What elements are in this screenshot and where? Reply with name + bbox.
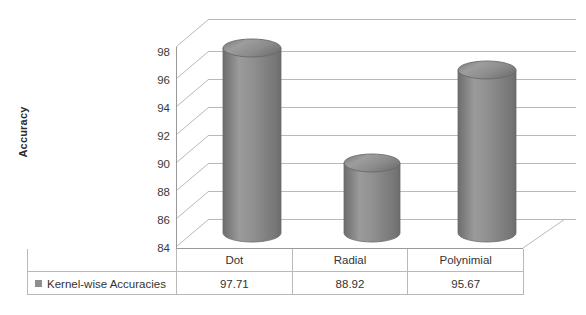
legend-label: Kernel-wise Accuracies: [47, 278, 166, 290]
bar-polynimial[interactable]: [458, 61, 516, 242]
depth-line-86: [176, 219, 209, 247]
depth-line-98: [176, 51, 209, 79]
depth-line-top: [176, 19, 209, 47]
floor-right-edge: [523, 219, 565, 248]
table-header-dot: Dot: [177, 249, 293, 271]
table-row-values: Kernel-wise Accuracies 97.71 88.92 95.67: [28, 272, 523, 295]
bar-radial-cap: [344, 154, 400, 172]
depth-line-94: [176, 107, 209, 135]
bar-dot-body: [223, 48, 281, 242]
depth-line-88: [176, 191, 209, 219]
depth-line-96: [176, 79, 209, 107]
bar-radial[interactable]: [344, 154, 400, 242]
table-value-polynimial: 95.67: [408, 272, 523, 295]
bar-radial-body: [344, 163, 400, 242]
table-row-categories: Dot Radial Polynimial: [28, 249, 523, 272]
bar-dot-cap: [223, 39, 281, 57]
legend-entry[interactable]: Kernel-wise Accuracies: [28, 272, 177, 295]
bar-polynimial-body: [458, 70, 516, 242]
depth-line-90: [176, 163, 209, 191]
bar-polynimial-cap: [458, 61, 516, 79]
chart-container: Accuracy 98 96 94 92 90 88 86 84: [0, 0, 586, 315]
depth-line-92: [176, 135, 209, 163]
bar-dot[interactable]: [223, 39, 281, 242]
data-table: Dot Radial Polynimial Kernel-wise Accura…: [27, 249, 524, 295]
legend-swatch-icon: [35, 280, 42, 287]
table-value-radial: 88.92: [293, 272, 409, 295]
table-corner-cell: [28, 249, 177, 271]
table-header-radial: Radial: [293, 249, 409, 271]
table-value-dot: 97.71: [177, 272, 293, 295]
table-header-polynimial: Polynimial: [408, 249, 523, 271]
